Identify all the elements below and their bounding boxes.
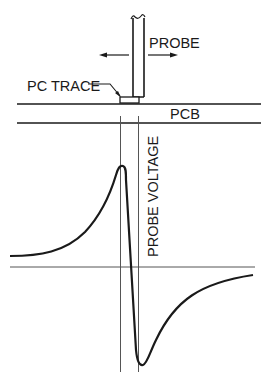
probe-body — [133, 18, 144, 97]
arrow-left-icon — [99, 53, 129, 58]
arrow-right-icon — [148, 53, 178, 58]
probe — [131, 15, 145, 97]
probe-voltage-label: PROBE VOLTAGE — [145, 136, 161, 257]
pc-trace-pad — [120, 97, 139, 103]
probe-voltage-diagram: PROBE PC TRACE PCB PROBE VOLTAGE — [0, 0, 268, 381]
pcb-label: PCB — [170, 106, 200, 122]
pc-trace-label: PC TRACE — [27, 78, 100, 94]
probe-voltage-curve — [10, 166, 253, 365]
probe-label: PROBE — [149, 35, 200, 51]
